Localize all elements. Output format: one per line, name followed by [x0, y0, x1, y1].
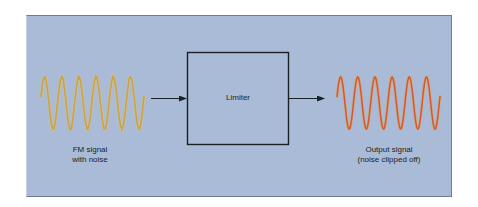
output-label-line2: (noise clipped off) — [341, 155, 437, 165]
diagram-canvas — [0, 0, 478, 207]
output-signal-label: Output signal (noise clipped off) — [341, 145, 437, 165]
input-signal-label: FM signal with noise — [52, 145, 128, 165]
input-waveform-icon — [41, 76, 144, 129]
input-label-line2: with noise — [52, 155, 128, 165]
output-waveform-icon — [337, 77, 440, 129]
limiter-label: Limiter — [187, 93, 289, 103]
output-label-line1: Output signal — [341, 145, 437, 155]
input-label-line1: FM signal — [52, 145, 128, 155]
